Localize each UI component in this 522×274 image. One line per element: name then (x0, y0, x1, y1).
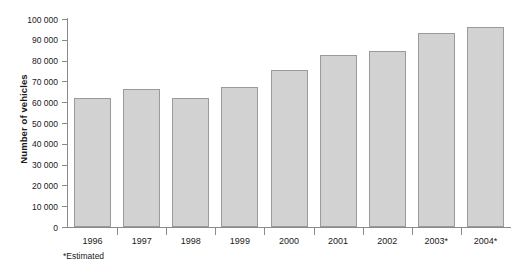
bar-chart: Number of vehicles 100 00090 00080 00070… (0, 0, 522, 274)
x-axis-tick-label: 2003* (412, 236, 461, 246)
x-axis-separator (314, 228, 315, 235)
x-axis-separator (166, 228, 167, 235)
y-axis-tick-label: 10 000 (32, 202, 58, 212)
x-axis-tick-label: 2004* (461, 236, 510, 246)
x-axis-separator (363, 228, 364, 235)
y-axis-tick-label: 50 000 (32, 119, 58, 129)
x-axis-separator (117, 228, 118, 235)
x-axis-tick-label: 2001 (314, 236, 363, 246)
bar (172, 98, 209, 227)
y-axis-tick-label: 30 000 (32, 160, 58, 170)
bar (467, 27, 504, 227)
bars-layer (68, 19, 510, 227)
x-axis-tick-label: 1999 (215, 236, 264, 246)
y-axis-tick-label: 90 000 (32, 35, 58, 45)
x-axis-line (67, 227, 511, 228)
x-axis-tick-label: 2000 (264, 236, 313, 246)
x-axis-tick-label: 1998 (166, 236, 215, 246)
bar (418, 33, 455, 227)
bar (320, 55, 357, 227)
y-axis-tick: 0 (62, 227, 68, 228)
x-axis-separator (461, 228, 462, 235)
x-axis-tick-label: 2002 (363, 236, 412, 246)
y-axis-title: Number of vehicles (14, 4, 32, 234)
x-axis-separator (412, 228, 413, 235)
y-axis-tick-mark (62, 227, 68, 228)
y-axis-tick-label: 70 000 (32, 77, 58, 87)
bar (74, 98, 111, 227)
y-axis-tick-label: 20 000 (32, 181, 58, 191)
y-axis-tick-label: 0 (53, 223, 58, 233)
y-axis-tick-label: 100 000 (27, 15, 58, 25)
y-axis-tick-label: 80 000 (32, 56, 58, 66)
bar (123, 89, 160, 227)
y-axis-tick-label: 60 000 (32, 98, 58, 108)
bar (271, 70, 308, 227)
x-axis-separator (215, 228, 216, 235)
bar (221, 87, 258, 227)
y-axis-tick-label: 40 000 (32, 139, 58, 149)
footnote: *Estimated (63, 251, 104, 261)
bar (369, 51, 406, 227)
x-axis-tick-label: 1996 (68, 236, 117, 246)
x-axis-tick-label: 1997 (117, 236, 166, 246)
x-axis-separator (264, 228, 265, 235)
